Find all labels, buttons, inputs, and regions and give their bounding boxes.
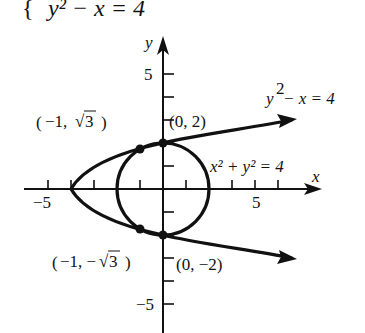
x-tick-label-5: 5: [252, 193, 261, 212]
intersection-diagram: { y² − x = 4 y x 5 −5 −5 5: [0, 0, 365, 333]
svg-text:): ): [125, 253, 131, 272]
svg-text:y: y: [264, 89, 274, 108]
label-top: (0, 2): [169, 112, 206, 131]
y-tick-label-neg5: −5: [136, 295, 154, 314]
parabola-label: y 2 − x = 4: [264, 79, 335, 108]
label-bottom-left: ( −1, − √ 3 ): [52, 251, 131, 272]
label-bottom-left-root: 3: [109, 252, 118, 271]
svg-text:√: √: [99, 252, 109, 271]
point-bottom-left: [136, 225, 145, 234]
y-tick-label-5: 5: [144, 65, 153, 84]
svg-text:− x = 4: − x = 4: [283, 89, 335, 108]
svg-text:): ): [101, 113, 107, 132]
svg-text:√: √: [75, 112, 85, 131]
label-top-left-root: 3: [85, 112, 94, 131]
system-equation-text: y² − x = 4: [46, 0, 145, 21]
point-top-left: [136, 145, 145, 154]
label-bottom-left-prefix: −1, −: [60, 252, 96, 271]
system-equation-fragment: { y² − x = 4: [22, 0, 145, 21]
system-brace: {: [22, 0, 34, 21]
label-bottom: (0, −2): [176, 255, 222, 274]
x-axis-label: x: [311, 167, 320, 186]
svg-text:(: (: [52, 253, 58, 272]
circle-label: x² + y² = 4: [209, 157, 284, 176]
svg-text:(: (: [36, 113, 42, 132]
point-top: [159, 139, 168, 148]
y-axis-label: y: [143, 33, 153, 52]
point-bottom: [159, 231, 168, 240]
label-top-left-prefix: −1,: [45, 112, 67, 131]
x-tick-label-neg5: −5: [33, 193, 51, 212]
label-top-left: ( −1, √ 3 ): [36, 111, 107, 132]
